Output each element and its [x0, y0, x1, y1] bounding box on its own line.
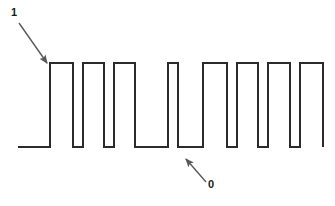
waveform-canvas: [0, 0, 335, 206]
high-level-label: 1: [11, 7, 17, 18]
waveform-trace: [18, 63, 323, 147]
low-level-arrow-icon: [186, 159, 206, 182]
waveform-figure: 1 0: [0, 0, 335, 206]
low-level-label: 0: [208, 179, 214, 190]
high-level-arrow-icon: [19, 23, 47, 63]
